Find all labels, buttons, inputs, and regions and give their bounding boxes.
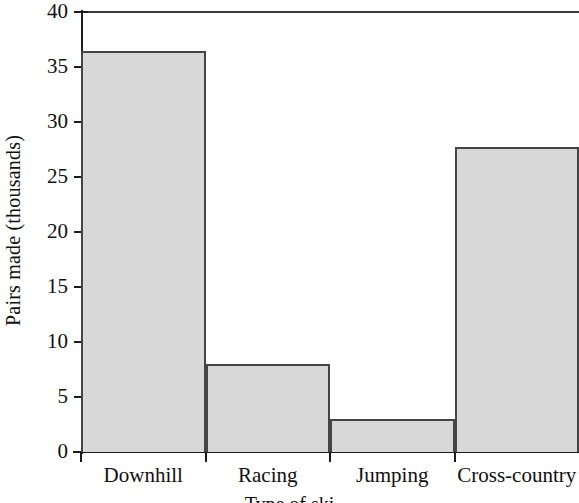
y-axis-tick-label-text: 40 — [28, 1, 68, 22]
x-axis-category-label: Cross-country — [455, 463, 579, 487]
bar-chart: Pairs made (thousands) 0510152025303540 … — [0, 0, 579, 503]
y-axis-tick-label-text: 35 — [28, 56, 68, 77]
x-axis-category-label: Jumping — [330, 463, 455, 487]
y-axis-tick-label: 40 — [28, 1, 68, 22]
y-axis-tick-label-text: 0 — [28, 441, 68, 462]
y-axis-title: Pairs made (thousands) — [0, 0, 28, 460]
bar — [206, 364, 331, 452]
x-axis-category-label: Racing — [206, 463, 331, 487]
bar — [330, 419, 455, 452]
bar — [81, 51, 206, 453]
y-axis-tick-label-text: 5 — [28, 386, 68, 407]
x-axis-tick — [80, 451, 82, 462]
y-axis-tick-label: 5 — [28, 386, 68, 407]
y-axis-tick-label-text: 10 — [28, 331, 68, 352]
y-axis-tick-label-text: 25 — [28, 166, 68, 187]
x-axis-title: Type of ski — [0, 492, 579, 503]
y-axis-tick-label: 20 — [28, 221, 68, 242]
y-axis-tick-label-text: 20 — [28, 221, 68, 242]
y-axis-tick-label-text: 15 — [28, 276, 68, 297]
plot-area — [81, 12, 579, 452]
y-axis-title-text: Pairs made (thousands) — [3, 134, 26, 325]
y-axis-tick-label-text: 30 — [28, 111, 68, 132]
y-axis-tick-label: 15 — [28, 276, 68, 297]
y-axis-tick-label: 10 — [28, 331, 68, 352]
y-axis-tick-label: 25 — [28, 166, 68, 187]
x-axis-tick — [205, 451, 207, 462]
x-axis-tick — [454, 451, 456, 462]
x-axis-tick — [329, 451, 331, 462]
y-axis-tick-label: 0 — [28, 441, 68, 462]
x-axis-category-label: Downhill — [81, 463, 206, 487]
y-axis-tick-label: 30 — [28, 111, 68, 132]
y-axis-tick-label: 35 — [28, 56, 68, 77]
bar — [455, 147, 579, 452]
